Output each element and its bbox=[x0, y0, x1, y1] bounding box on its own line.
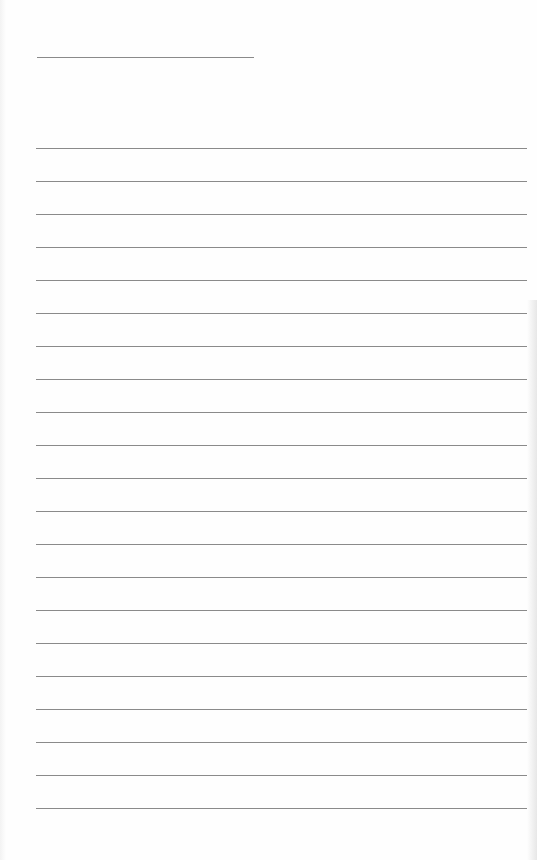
ruled-line bbox=[36, 544, 527, 545]
ruled-line bbox=[36, 280, 527, 281]
header-name-line bbox=[37, 57, 254, 58]
ruled-line bbox=[36, 775, 527, 776]
page-edge-shadow bbox=[527, 300, 537, 860]
ruled-line bbox=[36, 214, 527, 215]
page-left-shadow bbox=[0, 0, 6, 860]
ruled-line bbox=[36, 676, 527, 677]
ruled-line bbox=[36, 610, 527, 611]
ruled-line bbox=[36, 709, 527, 710]
ruled-line bbox=[36, 478, 527, 479]
ruled-line bbox=[36, 181, 527, 182]
ruled-line bbox=[36, 643, 527, 644]
ruled-line bbox=[36, 511, 527, 512]
ruled-line bbox=[36, 412, 527, 413]
ruled-line bbox=[36, 577, 527, 578]
ruled-line bbox=[36, 808, 527, 809]
ruled-line bbox=[36, 148, 527, 149]
ruled-line bbox=[36, 346, 527, 347]
ruled-line bbox=[36, 445, 527, 446]
ruled-line bbox=[36, 313, 527, 314]
ruled-line bbox=[36, 247, 527, 248]
ruled-line bbox=[36, 379, 527, 380]
lined-paper-page bbox=[0, 0, 537, 860]
ruled-line bbox=[36, 742, 527, 743]
